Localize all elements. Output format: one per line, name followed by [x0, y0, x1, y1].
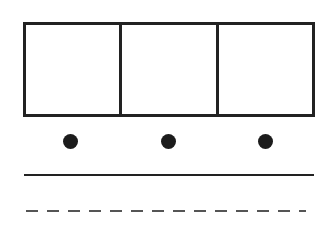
dot-3	[258, 134, 273, 149]
diagram-canvas	[0, 0, 332, 236]
solid-line	[24, 174, 314, 176]
box-2	[119, 25, 215, 114]
dashed-line	[26, 210, 306, 212]
three-box-row	[23, 22, 315, 117]
dot-1	[63, 134, 78, 149]
dot-2	[161, 134, 176, 149]
box-1	[26, 25, 119, 114]
box-3	[216, 25, 312, 114]
